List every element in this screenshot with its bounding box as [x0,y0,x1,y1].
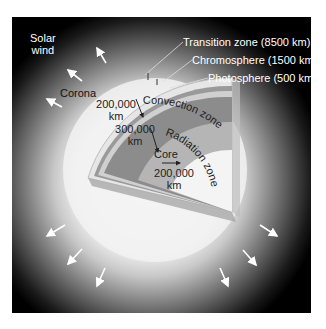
corona-label: Corona [60,87,96,99]
convection-depth-label: 200,000 km [95,98,137,122]
chromosphere-label: Chromosphere (1500 km) [192,54,317,66]
solar-wind-label-line2: wind [30,44,56,56]
core-radius-label: 200,000 km [150,167,198,191]
photosphere-label: Photosphere (500 km) [208,72,317,84]
solar-wind-label: Solar wind [30,32,56,56]
sun-structure-diagram: Convection zone Radiation zone Solar win… [0,0,326,329]
radiation-depth-label: 300,000 km [113,123,157,147]
transition-zone-label: Transition zone (8500 km) [183,36,310,48]
solar-wind-label-line1: Solar [30,32,56,44]
core-label: Core [154,148,178,160]
